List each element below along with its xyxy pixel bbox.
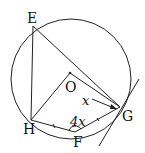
label-H: H [23, 121, 35, 137]
label-G: G [122, 108, 133, 124]
label-F: F [73, 134, 83, 150]
label-E: E [27, 10, 37, 26]
segment-EG [33, 26, 120, 107]
angle-label-x: x [82, 93, 90, 108]
angle-label-4x: 4x [69, 114, 86, 129]
segment-HF [31, 120, 75, 132]
center-point [69, 72, 72, 75]
label-O: O [65, 79, 76, 95]
segment-OG [70, 73, 120, 107]
geometry-diagram: E O H F G x 4x [0, 0, 145, 153]
diagram-canvas: E O H F G x 4x [0, 0, 145, 153]
segment-EH [31, 26, 33, 120]
